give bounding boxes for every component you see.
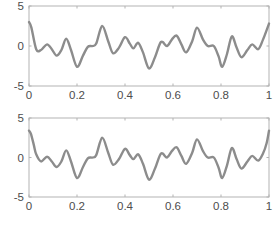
y-tick-label: 0 <box>18 40 24 52</box>
bottom-axes: 00.20.40.60.81-505 <box>14 112 272 212</box>
axes-frame <box>29 6 269 86</box>
y-tick-label: -5 <box>14 80 24 92</box>
y-tick-label: 0 <box>18 152 24 164</box>
x-tick-label: 0.6 <box>165 89 181 101</box>
x-tick-label: 1 <box>266 89 272 101</box>
x-tick-label: 0 <box>26 89 32 101</box>
x-tick-label: 0.8 <box>213 200 229 212</box>
x-tick-label: 0.2 <box>69 89 85 101</box>
y-tick-label: -5 <box>14 191 24 203</box>
x-tick-label: 1 <box>266 200 272 212</box>
figure: 00.20.40.60.81-505 00.20.40.60.81-505 <box>0 0 280 233</box>
x-tick-label: 0.4 <box>117 200 134 212</box>
x-tick-label: 0.2 <box>69 200 85 212</box>
x-tick-label: 0 <box>26 200 32 212</box>
y-tick-label: 5 <box>18 112 24 124</box>
x-tick-label: 0.4 <box>117 89 134 101</box>
top-axes: 00.20.40.60.81-505 <box>14 0 272 101</box>
y-tick-label: 5 <box>18 0 24 12</box>
x-tick-label: 0.6 <box>165 200 181 212</box>
x-tick-label: 0.8 <box>213 89 229 101</box>
axes-frame <box>29 118 269 197</box>
